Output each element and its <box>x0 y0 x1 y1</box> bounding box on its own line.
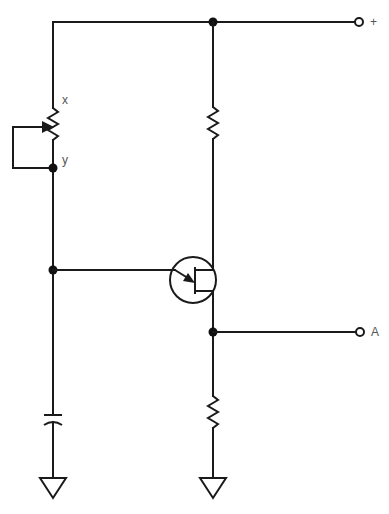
resistor-top-icon <box>208 107 218 139</box>
potentiometer-zigzag-icon <box>48 108 58 140</box>
ground-left-icon <box>40 478 66 498</box>
label-x: x <box>62 93 68 107</box>
wiper-loop-wire <box>13 127 53 168</box>
ground-right-icon <box>200 478 226 498</box>
transistor <box>170 257 216 303</box>
transistor-envelope-icon <box>170 257 216 303</box>
label-plus: + <box>370 15 377 29</box>
circuit-schematic: x y + A <box>0 0 389 514</box>
transistor-emitter-arrow-icon <box>183 273 195 283</box>
label-y: y <box>62 153 68 167</box>
wiper-arrow-icon <box>42 121 54 133</box>
junction-y <box>49 164 58 173</box>
label-a: A <box>371 325 379 339</box>
output-terminal <box>356 328 364 336</box>
resistor-bottom-icon <box>208 396 218 428</box>
potentiometer <box>13 108 58 168</box>
supply-terminal <box>355 18 363 26</box>
top-supply-wire <box>53 22 357 108</box>
